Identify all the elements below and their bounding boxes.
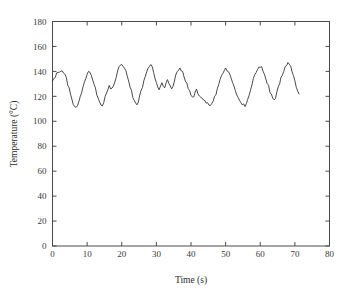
x-tick-label: 20 <box>117 249 127 259</box>
y-tick-label: 40 <box>38 191 48 201</box>
y-tick-label: 180 <box>33 17 47 27</box>
x-axis-title: Time (s) <box>175 275 207 286</box>
y-tick-label: 80 <box>38 141 48 151</box>
y-tick-label: 140 <box>33 67 47 77</box>
y-tick-label: 100 <box>33 116 47 126</box>
temperature-time-line-chart: 020406080100120140160180 010203040506070… <box>0 0 354 289</box>
x-tick-label: 30 <box>152 249 162 259</box>
x-tick-label: 60 <box>256 249 266 259</box>
x-tick-label: 80 <box>325 249 335 259</box>
y-tick-label: 120 <box>33 92 47 102</box>
y-axis-title: Temperature (°C) <box>9 101 20 168</box>
x-tick-label: 0 <box>50 249 55 259</box>
y-tick-label: 60 <box>38 166 48 176</box>
y-tick-label: 20 <box>38 216 48 226</box>
x-tick-label: 70 <box>290 249 300 259</box>
x-tick-label: 10 <box>83 249 93 259</box>
y-tick-label: 0 <box>42 241 47 251</box>
x-tick-label: 40 <box>187 249 197 259</box>
y-tick-label: 160 <box>33 42 47 52</box>
x-tick-label: 50 <box>221 249 231 259</box>
figure-container: 020406080100120140160180 010203040506070… <box>0 0 354 289</box>
